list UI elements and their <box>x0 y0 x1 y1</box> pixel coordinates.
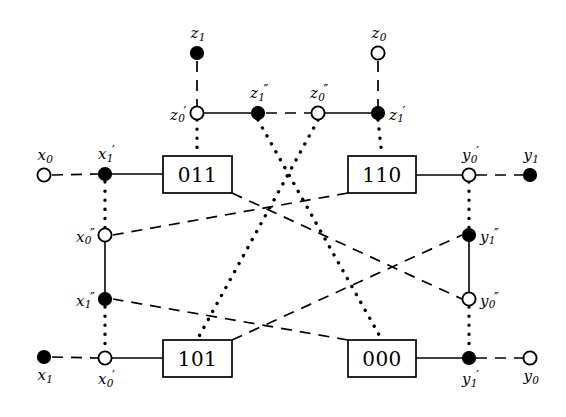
node-label-y1pp: y1″ <box>480 227 498 246</box>
node-label-z0pp: z0″ <box>310 83 328 102</box>
wire-layer <box>0 0 566 417</box>
node-label-y0: y0 <box>524 369 539 385</box>
switch-box-label-101: 101 <box>163 340 232 377</box>
node-label-z0p: z0′ <box>170 105 186 124</box>
node-x1pp[interactable] <box>99 293 112 306</box>
node-label-z0: z0 <box>372 26 387 42</box>
edge-dashed <box>52 174 98 175</box>
node-label-x1: x1 <box>38 368 53 384</box>
node-label-y1: y1 <box>524 148 539 164</box>
node-label-z1p: z1′ <box>389 105 405 124</box>
node-y1p[interactable] <box>463 352 476 365</box>
node-x1p[interactable] <box>99 168 112 181</box>
node-z0p[interactable] <box>190 106 203 119</box>
node-x1[interactable] <box>38 351 51 364</box>
switch-box-label-000: 000 <box>348 340 416 377</box>
node-x0pp[interactable] <box>98 228 111 241</box>
node-y1[interactable] <box>524 169 537 182</box>
node-label-x1pp: x1″ <box>76 291 94 310</box>
node-label-y1p: y1′ <box>462 369 478 388</box>
node-z1[interactable] <box>191 47 204 60</box>
edge-dashed <box>52 357 98 358</box>
node-x0[interactable] <box>37 168 50 181</box>
node-label-z1pp: z1″ <box>250 83 268 102</box>
diagram-canvas: 011110101000z1z0z0′z1″z0″z1′x0x1′x0″x1″x… <box>0 0 566 417</box>
edge-dotted <box>197 120 318 340</box>
node-group <box>37 46 536 364</box>
node-z0pp[interactable] <box>311 106 324 119</box>
node-label-x0p: x0′ <box>98 369 114 388</box>
node-label-y0pp: y0″ <box>480 291 498 310</box>
node-y0pp[interactable] <box>462 292 475 305</box>
switch-box-label-110: 110 <box>348 156 416 193</box>
edge-dashed <box>113 299 348 340</box>
node-label-x0: x0 <box>38 148 53 164</box>
edge-group <box>52 61 523 358</box>
edge-dotted <box>258 120 382 340</box>
edge-dashed <box>232 193 462 299</box>
node-z1pp[interactable] <box>252 107 265 120</box>
node-z0[interactable] <box>371 46 384 59</box>
edge-dashed <box>232 235 462 340</box>
node-label-x0pp: x0″ <box>76 227 94 246</box>
node-z1p[interactable] <box>372 107 385 120</box>
node-label-z1: z1 <box>191 26 206 42</box>
node-label-x1p: x1′ <box>98 144 114 163</box>
edge-dotted <box>378 120 382 156</box>
node-y0[interactable] <box>523 351 536 364</box>
switch-box-label-011: 011 <box>163 156 232 193</box>
node-label-y0p: y0′ <box>462 145 478 164</box>
node-y1pp[interactable] <box>463 229 476 242</box>
node-y0p[interactable] <box>462 168 475 181</box>
node-x0p[interactable] <box>98 351 111 364</box>
